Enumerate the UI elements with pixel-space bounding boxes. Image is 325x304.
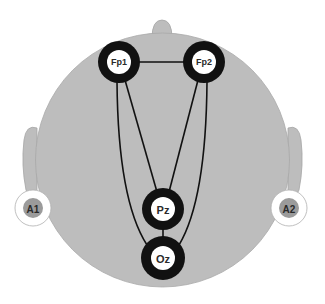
left-ear-shape xyxy=(23,127,37,197)
electrode-fp1: Fp1 xyxy=(98,41,140,83)
reference-electrode-a1: A1 xyxy=(15,190,51,226)
electrode-pz: Pz xyxy=(142,188,184,230)
reference-electrode-a2: A2 xyxy=(271,190,307,226)
electrode-label: Oz xyxy=(156,253,171,265)
electrode-fp2: Fp2 xyxy=(183,41,225,83)
electrode-label: Fp2 xyxy=(196,57,212,67)
eeg-montage-diagram: Fp1 Fp2 Pz Oz A1 A2 xyxy=(0,0,325,304)
electrode-label: Pz xyxy=(157,204,170,216)
reference-label: A2 xyxy=(283,204,296,215)
electrode-label: Fp1 xyxy=(111,57,127,67)
reference-label: A1 xyxy=(27,204,40,215)
right-ear-shape xyxy=(288,127,302,197)
electrode-oz: Oz xyxy=(141,236,185,280)
